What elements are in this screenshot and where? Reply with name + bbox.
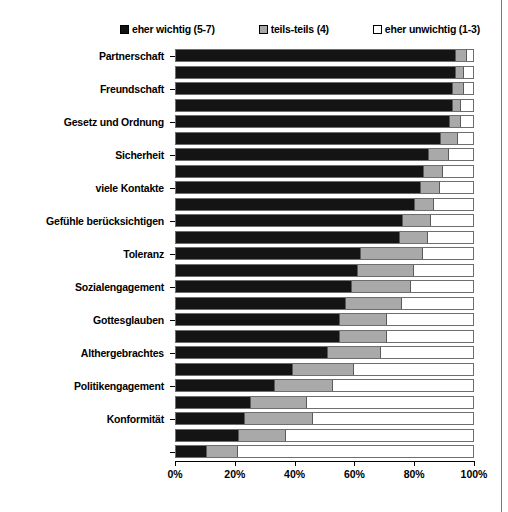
stacked-bar xyxy=(175,412,474,425)
bar-segment-black xyxy=(176,166,423,177)
stacked-bar xyxy=(175,198,474,211)
bar-segment-black xyxy=(176,413,244,424)
x-axis-tick xyxy=(354,461,355,466)
legend-item: eher wichtig (5-7) xyxy=(120,23,215,35)
x-axis-tick xyxy=(235,461,236,466)
category-axis: PartnerschaftFreundschaftGesetz und Ordn… xyxy=(0,48,170,460)
bar-segment-black xyxy=(176,314,339,325)
x-axis-tick-label: 80% xyxy=(404,468,425,480)
x-axis-tick xyxy=(474,461,475,466)
category-label: Sicherheit xyxy=(115,149,164,161)
black-swatch-icon xyxy=(120,25,129,34)
bar-segment-gray xyxy=(414,199,435,210)
x-axis-line xyxy=(175,461,475,462)
bar-segment-white xyxy=(354,364,473,375)
stacked-bar xyxy=(175,247,474,260)
stacked-bar xyxy=(175,264,474,277)
category-label: Toleranz xyxy=(123,248,164,260)
stacked-bar xyxy=(175,99,474,112)
stacked-bar xyxy=(175,346,474,359)
bar-segment-gray xyxy=(449,116,461,127)
bar-segment-gray xyxy=(455,50,467,61)
legend-item-label: eher wichtig (5-7) xyxy=(132,23,215,35)
bar-segment-gray xyxy=(339,314,387,325)
bar-segment-black xyxy=(176,446,206,457)
bar-segment-gray xyxy=(274,380,333,391)
white-swatch-icon xyxy=(373,25,382,34)
category-label: viele Kontakte xyxy=(96,182,164,194)
bar-segment-gray xyxy=(292,364,354,375)
bar-segment-black xyxy=(176,364,292,375)
bar-segment-white xyxy=(440,182,473,193)
stacked-bar xyxy=(175,363,474,376)
chart-container: eher wichtig (5-7)teils-teils (4)eher un… xyxy=(0,0,508,512)
bar-segment-gray xyxy=(238,430,286,441)
x-axis-tick xyxy=(414,461,415,466)
bar-segment-white xyxy=(402,298,473,309)
bar-segment-black xyxy=(176,67,455,78)
bar-segment-black xyxy=(176,199,414,210)
bar-segment-gray xyxy=(351,281,410,292)
bar-segment-gray xyxy=(452,83,464,94)
chart-legend: eher wichtig (5-7)teils-teils (4)eher un… xyxy=(120,21,480,37)
category-label: Partnerschaft xyxy=(99,50,164,62)
category-label: Konformität xyxy=(107,413,164,425)
bar-segment-black xyxy=(176,149,428,160)
bar-segment-white xyxy=(434,199,473,210)
x-axis-tick-label: 20% xyxy=(224,468,245,480)
bar-segment-black xyxy=(176,331,339,342)
bar-segment-white xyxy=(449,149,473,160)
stacked-bar xyxy=(175,231,474,244)
bar-segment-black xyxy=(176,50,455,61)
x-axis-tick-label: 60% xyxy=(344,468,365,480)
legend-item-label: teils-teils (4) xyxy=(271,23,329,35)
gray-swatch-icon xyxy=(259,25,268,34)
stacked-bar xyxy=(175,132,474,145)
stacked-bar xyxy=(175,379,474,392)
bar-segment-gray xyxy=(244,413,312,424)
stacked-bar xyxy=(175,396,474,409)
bar-segment-white xyxy=(387,314,473,325)
bar-segment-gray xyxy=(327,347,380,358)
legend-item: eher unwichtig (1-3) xyxy=(373,23,480,35)
x-axis-tick xyxy=(295,461,296,466)
x-axis-tick xyxy=(175,461,176,466)
bar-segment-white xyxy=(464,83,473,94)
stacked-bar xyxy=(175,66,474,79)
bar-segment-gray xyxy=(402,215,432,226)
bar-segment-white xyxy=(431,215,473,226)
bar-segment-white xyxy=(387,331,473,342)
bar-segment-white xyxy=(461,100,473,111)
bar-segment-white xyxy=(458,133,473,144)
category-label: Althergebrachtes xyxy=(81,347,164,359)
stacked-bar xyxy=(175,115,474,128)
bar-segment-gray xyxy=(357,265,413,276)
x-axis-tick-label: 0% xyxy=(167,468,182,480)
bar-segment-white xyxy=(428,232,473,243)
bar-segment-white xyxy=(414,265,473,276)
bar-segment-black xyxy=(176,83,452,94)
x-axis-tick-label: 100% xyxy=(461,468,488,480)
x-axis-tick-label: 40% xyxy=(284,468,305,480)
bar-segment-gray xyxy=(452,100,461,111)
bar-segment-white xyxy=(423,248,473,259)
stacked-bar xyxy=(175,165,474,178)
bar-segment-white xyxy=(461,116,473,127)
bar-segment-white xyxy=(411,281,473,292)
bar-segment-gray xyxy=(420,182,441,193)
stacked-bar xyxy=(175,181,474,194)
bar-segment-white xyxy=(443,166,473,177)
category-label: Freundschaft xyxy=(100,83,164,95)
bar-segment-black xyxy=(176,380,274,391)
category-label: Gesetz und Ordnung xyxy=(64,116,164,128)
right-border-rule xyxy=(501,0,502,512)
bar-segment-black xyxy=(176,100,452,111)
category-label: Gefühle berücksichtigen xyxy=(46,215,164,227)
bar-segment-white xyxy=(464,67,473,78)
legend-item-label: eher unwichtig (1-3) xyxy=(385,23,480,35)
bar-segment-black xyxy=(176,347,327,358)
stacked-bar xyxy=(175,330,474,343)
stacked-bar xyxy=(175,280,474,293)
bar-segment-gray xyxy=(360,248,422,259)
bar-segment-gray xyxy=(428,149,449,160)
